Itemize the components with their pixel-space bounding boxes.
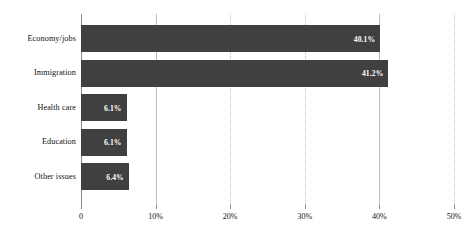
x-tick-label-40pct: 40%	[372, 212, 387, 221]
x-tick-40pct	[379, 205, 380, 209]
bar-education[interactable]: 6.1%	[81, 129, 127, 156]
x-tick-30pct	[305, 205, 306, 209]
x-tick-20pct	[230, 205, 231, 209]
x-axis: 010%20%30%40%50%	[81, 205, 454, 206]
x-tick-10pct	[156, 205, 157, 209]
bar-value-label: 6.1%	[104, 138, 122, 147]
gridline-50pct	[454, 14, 456, 205]
bar-other-issues[interactable]: 6.4%	[81, 163, 129, 190]
x-tick-0	[81, 205, 82, 209]
bar-health-care[interactable]: 6.1%	[81, 94, 127, 121]
category-label-economy-jobs: Economy/jobs	[0, 34, 76, 44]
bar-economy-jobs[interactable]: 40.1%	[81, 25, 380, 52]
x-tick-label-50pct: 50%	[447, 212, 461, 221]
x-tick-label-10pct: 10%	[148, 212, 163, 221]
x-tick-label-20pct: 20%	[223, 212, 238, 221]
category-axis-labels: Economy/jobs Immigration Health care Edu…	[0, 25, 76, 198]
category-label-education: Education	[0, 137, 76, 147]
bar-value-label: 40.1%	[354, 34, 375, 43]
plot-area: 40.1%41.2%6.1%6.1%6.4%	[81, 14, 454, 205]
x-tick-label-30pct: 30%	[297, 212, 312, 221]
category-label-health-care: Health care	[0, 103, 76, 113]
category-label-immigration: Immigration	[0, 68, 76, 78]
category-label-other-issues: Other issues	[0, 172, 76, 182]
bar-series: 40.1%41.2%6.1%6.1%6.4%	[81, 14, 454, 205]
bar-value-label: 6.1%	[104, 103, 122, 112]
x-tick-label-0: 0	[79, 212, 83, 221]
bar-immigration[interactable]: 41.2%	[81, 60, 388, 87]
bar-value-label: 41.2%	[362, 69, 383, 78]
bar-value-label: 6.4%	[106, 172, 124, 181]
x-tick-50pct	[454, 205, 455, 209]
